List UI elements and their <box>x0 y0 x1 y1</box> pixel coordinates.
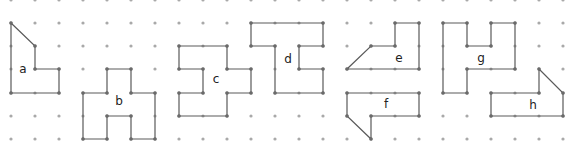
shape-vertex <box>273 91 277 95</box>
shape-vertex <box>297 67 301 71</box>
shape-vertex <box>465 91 469 95</box>
shape-vertex <box>57 67 61 71</box>
grid-dot <box>297 0 300 2</box>
grid-dot <box>537 137 540 140</box>
grid-dot <box>81 44 84 47</box>
shape-label-b: b <box>115 95 123 107</box>
grid-dot <box>417 137 420 140</box>
shape-vertex <box>465 67 469 71</box>
grid-dot <box>81 21 84 24</box>
grid-dot <box>489 0 492 2</box>
shape-vertex <box>81 137 85 141</box>
grid-dot <box>297 137 300 140</box>
shape-e <box>347 23 419 69</box>
shape-vertex <box>105 91 109 95</box>
shape-vertex <box>489 114 493 118</box>
grid-dot <box>441 114 444 117</box>
grid-dot <box>369 0 372 2</box>
grid-dot <box>561 21 564 24</box>
shape-vertex <box>369 137 373 141</box>
shape-vertex <box>9 21 13 25</box>
shape-vertex <box>489 21 493 25</box>
grid-dot <box>225 137 228 140</box>
grid-dot <box>273 114 276 117</box>
grid-dot <box>201 21 204 24</box>
grid-dot <box>393 137 396 140</box>
grid-dot <box>177 137 180 140</box>
shape-vertex <box>129 114 133 118</box>
shape-vertex <box>225 67 229 71</box>
grid-dot <box>561 67 564 70</box>
grid-dot <box>153 44 156 47</box>
shape-vertex <box>417 114 421 118</box>
grid-dot <box>561 44 564 47</box>
shape-vertex <box>225 44 229 48</box>
grid-dot <box>201 137 204 140</box>
grid-dot <box>489 137 492 140</box>
grid-dot <box>441 0 444 2</box>
grid-dot <box>81 67 84 70</box>
shape-vertex <box>417 91 421 95</box>
grid-dot <box>561 0 564 2</box>
shape-vertex <box>489 91 493 95</box>
shape-label-g: g <box>477 52 485 64</box>
grid-dot <box>417 0 420 2</box>
grid-dots <box>9 0 564 141</box>
shape-vertex <box>321 44 325 48</box>
shape-vertex <box>249 91 253 95</box>
grid-dot <box>249 114 252 117</box>
grid-dot <box>249 137 252 140</box>
shape-vertex <box>225 91 229 95</box>
grid-dot <box>153 21 156 24</box>
grid-dot <box>57 0 60 2</box>
grid-dot <box>57 21 60 24</box>
shape-vertex <box>297 44 301 48</box>
shape-vertex <box>249 67 253 71</box>
grid-dot <box>9 137 12 140</box>
shape-vertex <box>369 114 373 118</box>
grid-dot <box>321 114 324 117</box>
shape-vertex <box>201 91 205 95</box>
grid-dot <box>393 0 396 2</box>
shape-vertex <box>345 67 349 71</box>
grid-dot <box>513 0 516 2</box>
grid-dot <box>57 44 60 47</box>
shape-vertex <box>345 114 349 118</box>
shape-vertex <box>537 67 541 71</box>
grid-dot <box>465 137 468 140</box>
shape-vertex <box>441 21 445 25</box>
grid-dot <box>81 0 84 2</box>
shape-vertex <box>105 114 109 118</box>
grid-dot <box>249 0 252 2</box>
shape-vertex <box>321 67 325 71</box>
shape-vertex <box>441 91 445 95</box>
shape-vertex <box>129 137 133 141</box>
shape-vertex <box>177 114 181 118</box>
shape-label-h: h <box>529 99 537 111</box>
shape-vertex <box>393 21 397 25</box>
shape-vertex <box>129 91 133 95</box>
shape-label-f: f <box>384 98 388 110</box>
grid-dot <box>57 114 60 117</box>
shape-a <box>11 23 59 93</box>
grid-dot <box>177 0 180 2</box>
grid-dot <box>57 137 60 140</box>
grid-dot <box>129 21 132 24</box>
shape-vertex <box>513 67 517 71</box>
grid-dot <box>537 21 540 24</box>
grid-dot <box>345 44 348 47</box>
grid-dot <box>321 0 324 2</box>
shape-vertex <box>81 91 85 95</box>
grid-dot <box>321 137 324 140</box>
shape-vertex <box>153 91 157 95</box>
shape-vertex <box>9 91 13 95</box>
shape-vertex <box>57 91 61 95</box>
grid-dot <box>561 137 564 140</box>
shape-label-a: a <box>19 63 26 75</box>
grid-dot <box>345 21 348 24</box>
shape-h <box>491 69 563 116</box>
grid-dot <box>153 0 156 2</box>
shape-vertex <box>417 21 421 25</box>
shape-label-d: d <box>284 53 292 65</box>
grid-dot <box>297 114 300 117</box>
